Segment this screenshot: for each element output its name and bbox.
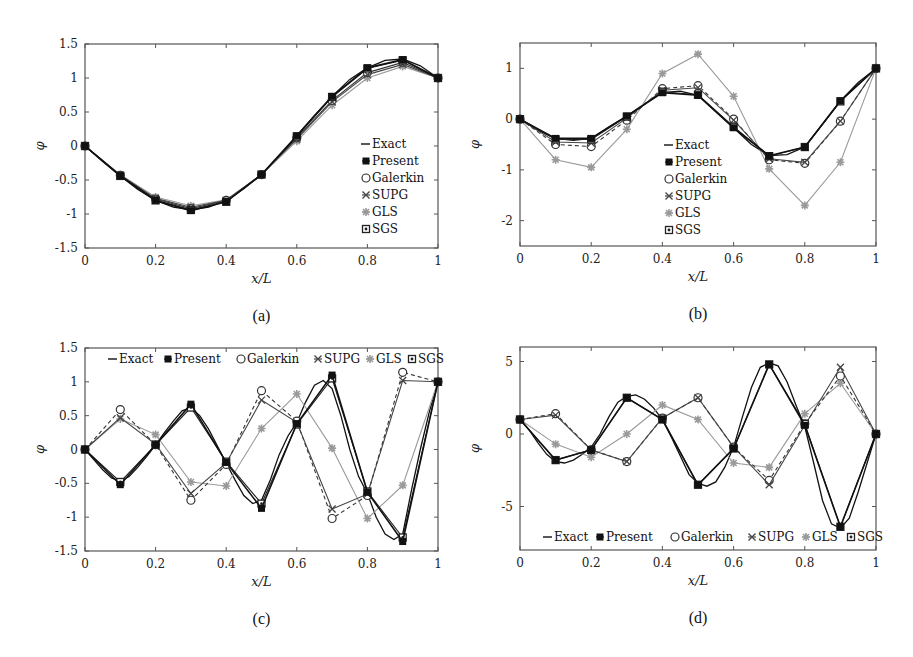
- legend-label: Galerkin: [247, 352, 300, 366]
- plot-area: [85, 348, 438, 551]
- x-axis-label: x/L: [688, 573, 708, 588]
- gls-marker: [399, 481, 407, 489]
- galerkin-marker: [258, 387, 266, 395]
- x-tick-label: 0.8: [795, 556, 814, 570]
- legend-galerkin-marker: [665, 175, 673, 183]
- present-marker: [293, 132, 300, 139]
- legend-item-supg: SUPG: [748, 530, 794, 544]
- legend-galerkin-marker: [671, 533, 679, 541]
- present-marker: [730, 445, 737, 452]
- y-tick-label: -1: [501, 163, 513, 177]
- present-marker: [364, 64, 371, 71]
- legend-label: SGS: [675, 223, 701, 237]
- present-marker: [152, 197, 159, 204]
- legend-sgs-marker: [666, 227, 673, 234]
- x-tick-label: 0: [81, 254, 89, 268]
- x-tick-label: 0.8: [358, 557, 377, 571]
- legend-item-galerkin: Galerkin: [237, 352, 300, 366]
- legend-label: Exact: [554, 530, 588, 544]
- x-tick-label: 0.6: [724, 556, 743, 570]
- x-axis-label: x/L: [251, 574, 271, 589]
- exact-curve: [520, 363, 876, 528]
- legend-label: SUPG: [372, 188, 408, 202]
- legend-present-marker: [165, 356, 172, 363]
- x-tick-label: 0: [81, 557, 89, 571]
- present-marker: [801, 144, 808, 151]
- legend-item-sgs: SGS: [408, 352, 444, 366]
- y-tick-label: -1.5: [55, 544, 78, 558]
- chart-panel-d: 00.20.40.60.81-505x/Lφ(d)ExactPresentGal…: [467, 347, 883, 627]
- legend-item-present: Present: [164, 352, 221, 366]
- legend-label: GLS: [372, 205, 398, 219]
- y-tick-label: -2: [501, 214, 513, 228]
- present-marker: [873, 431, 880, 438]
- legend-label: Present: [606, 530, 653, 544]
- present-marker: [517, 416, 524, 423]
- present-marker: [117, 172, 124, 179]
- galerkin-marker: [801, 159, 809, 167]
- y-tick-label: 0: [505, 427, 513, 441]
- legend-gls-marker: [802, 533, 810, 541]
- legend-item-present: Present: [596, 530, 653, 544]
- x-tick-label: 0: [516, 556, 524, 570]
- series-sgs: [517, 361, 880, 530]
- gls-marker: [836, 158, 844, 166]
- present-marker: [837, 523, 844, 530]
- legend-item-exact: Exact: [543, 530, 588, 544]
- gls-marker: [623, 430, 631, 438]
- legend-item-exact: Exact: [361, 137, 406, 151]
- supg-marker: [837, 364, 844, 371]
- legend-label: Exact: [372, 137, 406, 151]
- panel-caption: (a): [253, 307, 271, 325]
- present-marker: [623, 113, 630, 120]
- legend-label: SUPG: [758, 530, 794, 544]
- gls-marker: [187, 478, 195, 486]
- y-tick-label: -0.5: [55, 476, 78, 490]
- present-marker: [588, 446, 595, 453]
- y-tick-label: 5: [505, 355, 513, 369]
- x-tick-label: 0.6: [287, 254, 306, 268]
- series-supg: [517, 364, 880, 488]
- gls-marker: [658, 69, 666, 77]
- y-tick-label: 1.5: [59, 341, 78, 355]
- legend-label: Exact: [119, 352, 153, 366]
- y-tick-label: 1: [70, 375, 78, 389]
- x-tick-label: 0.8: [795, 252, 814, 266]
- legend-present-marker: [666, 159, 673, 166]
- present-marker: [399, 538, 406, 545]
- plot-area: [520, 347, 876, 550]
- present-marker: [873, 65, 880, 72]
- legend-item-gls: GLS: [802, 530, 838, 544]
- y-tick-label: -0.5: [55, 173, 78, 187]
- legend-item-present: Present: [362, 154, 419, 168]
- gls-marker: [222, 482, 230, 490]
- y-tick-label: 0: [505, 112, 513, 126]
- present-marker: [659, 89, 666, 96]
- present-marker: [435, 75, 442, 82]
- x-tick-label: 0.4: [217, 254, 236, 268]
- gls-marker: [116, 415, 124, 423]
- supg-marker: [258, 397, 265, 404]
- galerkin-marker: [116, 406, 124, 414]
- legend-label: Present: [675, 155, 722, 169]
- present-marker: [837, 97, 844, 104]
- y-tick-label: -1.5: [55, 241, 78, 255]
- present-marker: [695, 92, 702, 99]
- legend-label: SUPG: [324, 352, 360, 366]
- x-tick-label: 0.8: [358, 254, 377, 268]
- gls-marker: [694, 50, 702, 58]
- gls-marker: [730, 92, 738, 100]
- x-tick-label: 0.2: [582, 252, 601, 266]
- present-marker: [552, 457, 559, 464]
- present-marker: [399, 56, 406, 63]
- chart-panel-a: 00.20.40.60.81-1.5-1-0.500.511.5x/Lφ(a)E…: [32, 37, 442, 325]
- legend-item-present: Present: [665, 155, 722, 169]
- present-marker: [223, 198, 230, 205]
- y-tick-label: -1: [66, 207, 78, 221]
- galerkin-marker: [187, 496, 195, 504]
- x-tick-label: 0.4: [653, 556, 672, 570]
- legend-label: GLS: [376, 352, 402, 366]
- gls-marker: [293, 390, 301, 398]
- x-tick-label: 0.2: [146, 557, 165, 571]
- legend-item-galerkin: Galerkin: [362, 171, 425, 185]
